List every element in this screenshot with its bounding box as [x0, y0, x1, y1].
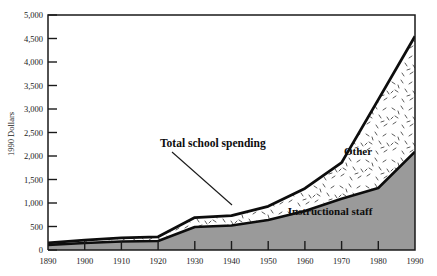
y-tick-label-5000: 5,000 — [24, 10, 43, 20]
y-tick-label-2000: 2,000 — [24, 151, 43, 161]
y-tick-label-500: 500 — [30, 222, 43, 232]
y-axis-title: 1990 Dollars — [6, 112, 16, 156]
x-tick-label-1930: 1930 — [186, 256, 203, 266]
x-tick-label-1980: 1980 — [370, 256, 387, 266]
y-tick-label-4500: 4,500 — [24, 34, 43, 44]
y-tick-label-0: 0 — [39, 245, 43, 255]
x-tick-label-1910: 1910 — [113, 256, 130, 266]
x-tick-label-1950: 1950 — [260, 256, 277, 266]
x-tick-label-1900: 1900 — [76, 256, 93, 266]
x-tick-label-1990: 1990 — [407, 256, 424, 266]
y-tick-label-3000: 3,000 — [24, 104, 43, 114]
x-tick-label-1940: 1940 — [223, 256, 240, 266]
y-tick-label-1500: 1,500 — [24, 175, 43, 185]
series-label-other: Other — [344, 145, 372, 157]
x-tick-label-1890: 1890 — [40, 256, 57, 266]
school-spending-area-chart: 0 500 1,000 1,500 2,000 2,500 3,000 3,50… — [0, 0, 437, 276]
y-tick-label-4000: 4,000 — [24, 57, 43, 67]
x-tick-label-1920: 1920 — [150, 256, 167, 266]
y-tick-label-2500: 2,500 — [24, 128, 43, 138]
annotation-total-school-spending: Total school spending — [160, 137, 266, 150]
y-tick-label-1000: 1,000 — [24, 198, 43, 208]
x-tick-label-1970: 1970 — [333, 256, 350, 266]
series-label-instructional-staff: Instructional staff — [288, 205, 373, 217]
x-tick-label-1960: 1960 — [296, 256, 313, 266]
chart-container: 0 500 1,000 1,500 2,000 2,500 3,000 3,50… — [0, 0, 437, 276]
y-tick-label-3500: 3,500 — [24, 81, 43, 91]
